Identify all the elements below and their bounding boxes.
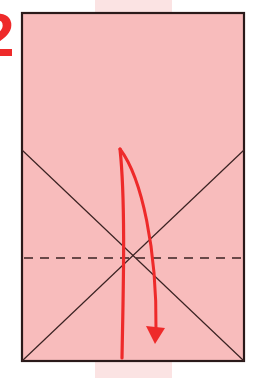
origami-diagram [0,0,257,378]
paper-sheet [22,13,244,361]
